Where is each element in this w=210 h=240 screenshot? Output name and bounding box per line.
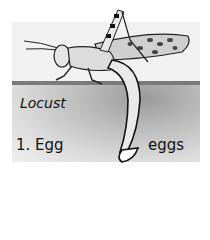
eggs-callout-label: eggs — [148, 136, 184, 154]
stage-label: 1. Egg — [16, 136, 64, 154]
organism-label: Locust — [20, 95, 66, 111]
